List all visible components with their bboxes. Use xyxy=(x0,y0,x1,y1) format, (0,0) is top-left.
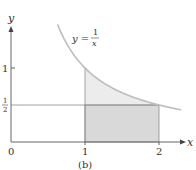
y-axis-arrow-icon xyxy=(9,26,14,32)
figure: y x 0 1 2 1 1 2 y = 1 x (b) xyxy=(0,0,196,170)
y-tick-half-numerator: 1 xyxy=(3,97,7,105)
shaded-rectangle xyxy=(85,105,159,142)
y-tick-label-1: 1 xyxy=(2,63,8,74)
y-tick-half-denominator: 2 xyxy=(3,106,7,114)
x-axis-arrow-icon xyxy=(180,140,186,145)
function-label-denominator: x xyxy=(92,39,97,48)
figure-caption: (b) xyxy=(78,159,92,170)
y-tick-label-half: 1 2 xyxy=(2,97,8,114)
origin-label: 0 xyxy=(8,146,14,157)
function-label-lhs: y = xyxy=(71,33,89,44)
y-axis-label: y xyxy=(7,12,15,25)
function-label: y = 1 x xyxy=(71,28,99,48)
x-tick-label-1: 1 xyxy=(82,146,88,157)
x-axis-label: x xyxy=(187,136,194,149)
function-label-numerator: 1 xyxy=(93,28,98,37)
x-tick-label-2: 2 xyxy=(156,146,162,157)
